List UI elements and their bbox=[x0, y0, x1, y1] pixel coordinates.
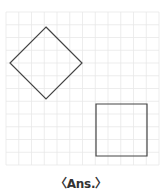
square-shape bbox=[96, 104, 147, 156]
shapes bbox=[10, 27, 147, 156]
grid-figure bbox=[0, 0, 162, 170]
grid-lines bbox=[6, 12, 159, 165]
answer-caption: 〈Ans.〉 bbox=[0, 174, 162, 191]
